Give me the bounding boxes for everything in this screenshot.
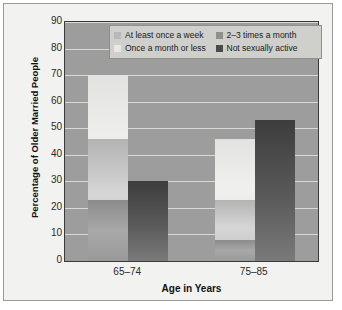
legend-swatch-icon-2: [114, 45, 121, 52]
bar-0-1: [88, 200, 128, 261]
legend-swatch-icon-1: [216, 32, 223, 39]
bar-1-1: [215, 240, 255, 261]
chart-legend: At least once a week 2–3 times a month O…: [109, 25, 322, 59]
legend-item-2[interactable]: Once a month or less: [114, 42, 216, 55]
x-tick-label-0: 65–74: [87, 266, 167, 277]
x-axis-title: Age in Years: [64, 283, 319, 294]
bar-1-3: [255, 120, 295, 261]
y-tick-80: 80: [28, 43, 62, 53]
legend-item-0[interactable]: At least once a week: [114, 29, 216, 42]
legend-swatch-icon-3: [216, 45, 223, 52]
legend-swatch-icon-0: [114, 32, 121, 39]
y-tick-10: 10: [28, 228, 62, 238]
legend-label-2: Once a month or less: [125, 42, 206, 55]
legend-label-1: 2–3 times a month: [227, 29, 297, 42]
bar-0-3: [128, 181, 168, 261]
gridline-90: [65, 22, 318, 23]
legend-item-3[interactable]: Not sexually active: [216, 42, 318, 55]
y-tick-40: 40: [28, 149, 62, 159]
legend-label-0: At least once a week: [125, 29, 203, 42]
y-tick-30: 30: [28, 175, 62, 185]
chart-frame: Percentage of Older Married People 01020…: [3, 3, 333, 301]
y-tick-20: 20: [28, 202, 62, 212]
x-tick-label-1: 75–85: [214, 266, 294, 277]
y-tick-90: 90: [28, 16, 62, 26]
y-tick-50: 50: [28, 122, 62, 132]
y-tick-70: 70: [28, 69, 62, 79]
legend-item-1[interactable]: 2–3 times a month: [216, 29, 318, 42]
y-tick-0: 0: [28, 255, 62, 265]
legend-label-3: Not sexually active: [227, 42, 298, 55]
y-axis-tick-labels: 0102030405060708090: [22, 21, 62, 262]
y-tick-60: 60: [28, 96, 62, 106]
